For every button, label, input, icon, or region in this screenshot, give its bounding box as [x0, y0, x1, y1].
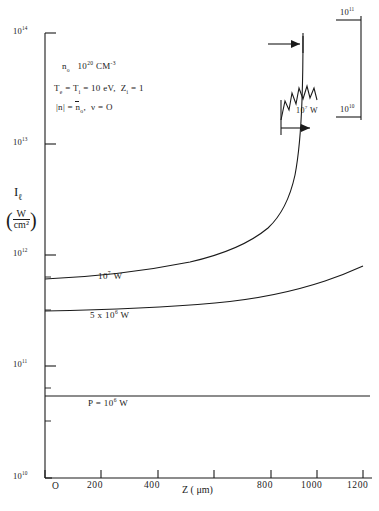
- x-tick-label-200: 200: [87, 481, 103, 491]
- y-axis-title: Iℓ: [14, 183, 23, 199]
- y-axis-units: (Wcm²): [6, 209, 37, 230]
- curve-label-10e6-w: P = 106 W: [88, 399, 128, 408]
- x-tick-label-0: O: [52, 482, 59, 492]
- right-tick-label-1e10: 1010: [340, 105, 355, 114]
- y-tick-label-1e10: 1010: [13, 472, 28, 481]
- y-axis-major-ticks: [45, 33, 56, 478]
- curve-5x10e6-w: [45, 266, 363, 311]
- x-tick-label-400: 400: [144, 481, 160, 491]
- units-denominator: cm²: [13, 220, 30, 230]
- x-tick-label-1000: 1000: [301, 481, 322, 491]
- upper-arrow-marker: [268, 36, 303, 53]
- x-tick-label-1200: 1200: [347, 481, 368, 491]
- x-axis-title: Z ( μm): [182, 485, 213, 495]
- annotation-line-density: no 1020 CM-3: [62, 62, 116, 71]
- y-tick-label-1e13: 1013: [13, 138, 28, 147]
- y-tick-label-1e12: 1012: [13, 249, 28, 258]
- curve-label-5x10e6-w: 5 x 106 W: [90, 311, 130, 320]
- annotation-line-temperature: Te = Ti = 10 eV, Zi = 1: [54, 84, 144, 93]
- x-axis-ticks: [45, 470, 363, 478]
- paren-close: ): [30, 209, 37, 231]
- annotation-line-perturbation: |n| = no, ν = O: [56, 103, 113, 112]
- n-bar: n: [75, 102, 80, 112]
- y-tick-label-1e14: 1014: [13, 27, 28, 36]
- figure-root: 1014 1013 1012 1011 1010 Iℓ (Wcm²) O 200…: [0, 0, 379, 511]
- curve-label-inset-10e7-w: 107 W: [296, 107, 318, 115]
- paren-open: (: [6, 209, 13, 231]
- y-axis-title-subscript: ℓ: [18, 192, 22, 202]
- curve-label-10e7-w: 107 W: [98, 272, 122, 281]
- x-tick-label-800: 800: [257, 481, 273, 491]
- y-axis-minor-ticks: [45, 277, 51, 421]
- units-fraction: Wcm²: [13, 209, 30, 230]
- right-tick-label-1e11: 1011: [340, 8, 354, 17]
- y-tick-label-1e11: 1011: [13, 360, 27, 369]
- plot-svg: [0, 0, 379, 511]
